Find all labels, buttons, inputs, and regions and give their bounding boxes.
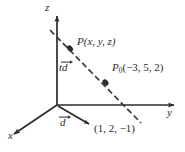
- x-axis: [14, 105, 57, 134]
- vector-d-glyph: d: [60, 117, 66, 128]
- vector-arrow-accent: [61, 60, 70, 64]
- vector-d-glyph-td: d: [62, 62, 68, 73]
- vector-arrow-accent-d: [59, 115, 68, 119]
- point-p-label: P(x, y, z): [77, 36, 115, 47]
- direction-coordinates-label: (1, 2, −1): [94, 123, 135, 134]
- point-p0-name: P: [112, 61, 119, 73]
- scalar-times-d-label: td: [59, 62, 68, 73]
- x-axis-label: x: [8, 130, 13, 141]
- point-p0-coordinates: (−3, 5, 2): [122, 61, 163, 73]
- z-axis-label: z: [45, 2, 49, 13]
- point-p0-label: P0(−3, 5, 2): [112, 62, 164, 75]
- y-axis-label: y: [167, 107, 172, 118]
- vector-line-diagram: z y x P(x, y, z) P0(−3, 5, 2) td d (1, 2…: [0, 0, 185, 152]
- direction-vector-label: d: [60, 117, 66, 128]
- diagram-canvas: [0, 0, 185, 152]
